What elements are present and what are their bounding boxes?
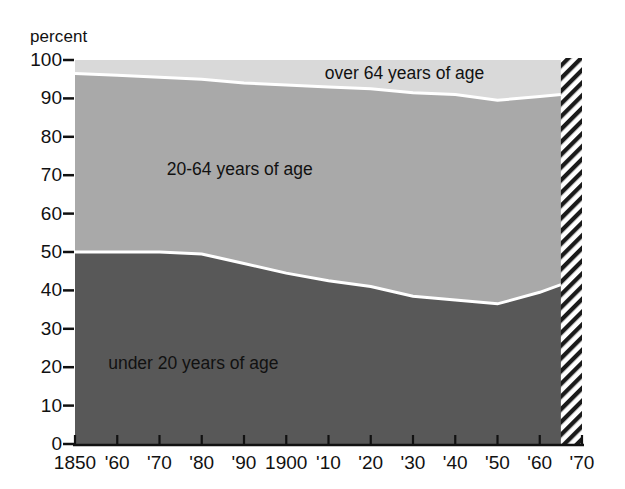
- x-tick-label-y60: '60: [527, 452, 552, 474]
- x-tick-label-y80: '80: [189, 452, 214, 474]
- y-tick-label-20: 20: [41, 356, 62, 378]
- x-tick-label-y90: '90: [232, 452, 257, 474]
- x-tick-label-y50: '50: [485, 452, 510, 474]
- y-tick-label-50: 50: [41, 241, 62, 263]
- y-tick-label-100: 100: [30, 49, 62, 71]
- y-tick-label-60: 60: [41, 203, 62, 225]
- x-tick-label-y70: '70: [147, 452, 172, 474]
- projection-hatch-region: [561, 58, 582, 444]
- x-tick-label-y40: '40: [443, 452, 468, 474]
- y-axis-tick-labels: 0102030405060708090100: [0, 0, 62, 489]
- y-tick-label-30: 30: [41, 318, 62, 340]
- x-tick-label-1900: 1900: [265, 452, 307, 474]
- x-tick-label-y10: '10: [316, 452, 341, 474]
- x-tick-label-y70: '70: [570, 452, 595, 474]
- stacked-area-chart: percent 0102030405060708090100 1850'60'7…: [0, 0, 625, 489]
- x-tick-label-y30: '30: [401, 452, 426, 474]
- y-tick-label-80: 80: [41, 126, 62, 148]
- x-tick-label-1850: 1850: [54, 452, 96, 474]
- y-tick-label-70: 70: [41, 164, 62, 186]
- x-tick-label-y20: '20: [358, 452, 383, 474]
- x-tick-label-y60: '60: [105, 452, 130, 474]
- plot-area: [0, 0, 625, 489]
- y-tick-label-40: 40: [41, 279, 62, 301]
- y-tick-label-10: 10: [41, 395, 62, 417]
- y-tick-label-90: 90: [41, 87, 62, 109]
